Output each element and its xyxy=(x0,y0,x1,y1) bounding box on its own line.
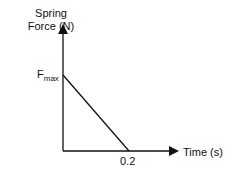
x-axis-label: Time (s) xyxy=(183,146,223,159)
force-line xyxy=(63,75,129,151)
y-axis-label-line1: Spring xyxy=(20,7,82,20)
fmax-sub: max xyxy=(44,74,59,83)
x-tick-label: 0.2 xyxy=(120,155,135,168)
fmax-tick-label: Fmax xyxy=(37,68,59,85)
y-axis-label: Spring Force (N) xyxy=(20,7,82,33)
y-axis-label-line2: Force (N) xyxy=(20,20,82,33)
x-axis-arrow-icon xyxy=(169,146,179,156)
fmax-main: F xyxy=(37,68,44,80)
